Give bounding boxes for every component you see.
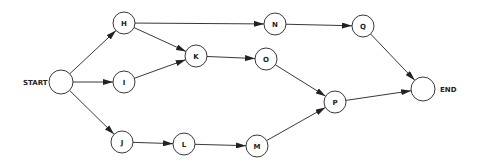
edge-start-j bbox=[70, 90, 115, 134]
node-start bbox=[49, 70, 73, 94]
node-o: O bbox=[255, 48, 277, 70]
edge-q-end bbox=[371, 34, 415, 80]
node-label: N bbox=[272, 21, 278, 29]
end-label: END bbox=[440, 86, 457, 94]
node-circle bbox=[49, 70, 73, 94]
edge-h-n bbox=[135, 23, 264, 24]
node-label: O bbox=[263, 56, 269, 64]
node-i: I bbox=[113, 71, 135, 93]
node-label: K bbox=[193, 53, 199, 61]
edge-h-k bbox=[134, 28, 186, 52]
node-label: M bbox=[254, 143, 261, 151]
node-circle bbox=[411, 77, 435, 101]
edge-o-p bbox=[275, 65, 325, 96]
edge-start-h bbox=[70, 31, 116, 74]
edge-j-l bbox=[133, 142, 173, 143]
node-label: J bbox=[120, 139, 124, 147]
network-diagram: HIJKLMNOPQ START END bbox=[0, 0, 480, 168]
nodes-layer: HIJKLMNOPQ bbox=[49, 12, 435, 157]
edge-k-o bbox=[207, 56, 255, 58]
node-p: P bbox=[324, 91, 346, 113]
node-end bbox=[411, 77, 435, 101]
node-label: H bbox=[121, 20, 127, 28]
node-k: K bbox=[185, 45, 207, 67]
node-label: L bbox=[182, 141, 187, 149]
node-n: N bbox=[264, 13, 286, 35]
node-h: H bbox=[113, 12, 135, 34]
edge-i-k bbox=[134, 60, 185, 79]
node-label: Q bbox=[360, 23, 366, 31]
node-label: P bbox=[332, 99, 337, 107]
node-q: Q bbox=[352, 15, 374, 37]
start-label: START bbox=[23, 79, 48, 87]
node-label: I bbox=[123, 79, 126, 87]
edge-p-end bbox=[346, 91, 411, 101]
edge-n-q bbox=[286, 24, 352, 26]
edge-l-m bbox=[195, 144, 246, 145]
node-m: M bbox=[246, 135, 268, 157]
node-l: L bbox=[173, 133, 195, 155]
node-j: J bbox=[111, 131, 133, 153]
edge-m-p bbox=[267, 107, 326, 140]
